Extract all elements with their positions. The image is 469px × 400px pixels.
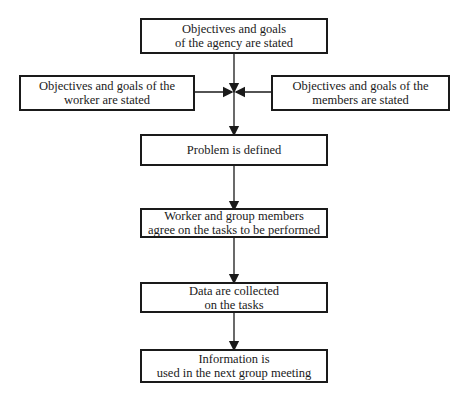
node-text: Problem is defined — [187, 143, 281, 157]
node-problem-defined: Problem is defined — [140, 134, 328, 166]
node-text: used in the next group meeting — [157, 366, 311, 380]
node-text: Information is — [198, 352, 269, 366]
node-text: Objectives and goals — [182, 22, 286, 36]
node-text: Worker and group members — [164, 209, 304, 223]
connector-arrows — [0, 0, 469, 400]
node-agree-tasks: Worker and group members agree on the ta… — [140, 208, 328, 238]
node-text: on the tasks — [204, 298, 263, 312]
node-text: Objectives and goals of the — [292, 79, 428, 93]
node-members-goals: Objectives and goals of the members are … — [271, 75, 450, 111]
node-data-collected: Data are collected on the tasks — [140, 282, 328, 313]
node-text: Objectives and goals of the — [39, 79, 175, 93]
node-worker-goals: Objectives and goals of the worker are s… — [19, 75, 195, 111]
node-agency-goals: Objectives and goals of the agency are s… — [140, 18, 328, 54]
node-text: members are stated — [312, 93, 408, 107]
node-information-used: Information is used in the next group me… — [140, 349, 328, 383]
node-text: of the agency are stated — [175, 36, 293, 50]
node-text: agree on the tasks to be performed — [148, 223, 320, 237]
node-text: Data are collected — [189, 284, 279, 298]
node-text: worker are stated — [64, 93, 150, 107]
